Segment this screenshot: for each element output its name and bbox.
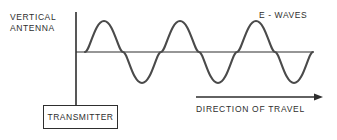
direction-of-travel-label: DIRECTION OF TRAVEL [196, 104, 305, 115]
e-wave-propagation-diagram: VERTICAL ANTENNA E - WAVES DIRECTION OF … [0, 0, 337, 140]
transmitter-label: TRANSMITTER [44, 106, 117, 128]
e-waves-label: E - WAVES [259, 10, 307, 21]
vertical-antenna-label: VERTICAL ANTENNA [10, 12, 56, 34]
antenna-label-line-1: VERTICAL [10, 12, 56, 23]
direction-arrow-head-icon [314, 94, 323, 101]
transmitter-box: TRANSMITTER [43, 105, 118, 129]
antenna-label-line-2: ANTENNA [10, 23, 56, 34]
